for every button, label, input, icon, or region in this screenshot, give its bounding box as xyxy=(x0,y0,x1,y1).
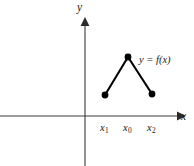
graph-canvas xyxy=(0,0,194,166)
y-axis-arrowhead xyxy=(81,17,90,26)
function-point-x1 xyxy=(102,92,109,99)
tick-label-x2-base: x xyxy=(147,122,152,133)
tick-label-x2: x2 xyxy=(147,123,155,134)
tick-label-x1-subscript: 1 xyxy=(105,126,109,135)
curve-equation-label: y = f(x) xyxy=(139,55,171,66)
tick-label-x2-subscript: 2 xyxy=(152,126,156,135)
tick-label-x0-base: x xyxy=(123,122,128,133)
function-point-x0 xyxy=(125,54,132,61)
tick-label-x0-subscript: 0 xyxy=(128,126,132,135)
tick-label-x0: x0 xyxy=(123,123,131,134)
function-graph-figure: y x y = f(x) x1 x0 x2 xyxy=(0,0,194,166)
function-point-x2 xyxy=(149,91,156,98)
y-axis-label: y xyxy=(77,2,82,14)
tick-label-x1: x1 xyxy=(100,123,108,134)
tick-label-x1-base: x xyxy=(100,122,105,133)
curve-label-close-paren: ) xyxy=(167,54,171,65)
x-axis-label: x xyxy=(181,111,186,123)
